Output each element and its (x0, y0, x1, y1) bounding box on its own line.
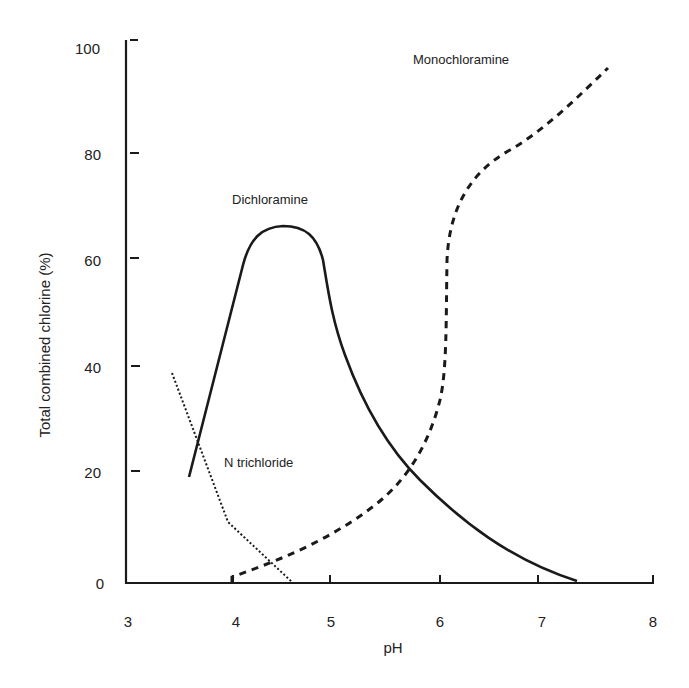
x-tick-label-8: 8 (649, 613, 657, 630)
x-tick-label-6: 6 (436, 613, 444, 630)
x-axis-title: pH (383, 639, 402, 656)
label-monochloramine: Monochloramine (413, 52, 509, 67)
x-axis: 3 4 5 6 7 8 pH (124, 575, 657, 656)
y-axis: 100 80 60 40 20 0 Total combined chlorin… (36, 40, 140, 592)
y-tick-label-100: 100 (75, 40, 100, 57)
y-tick-label-40: 40 (84, 359, 101, 376)
x-tick-label-3: 3 (124, 613, 132, 630)
y-axis-title: Total combined chlorine (%) (36, 252, 53, 437)
chloramine-ph-chart: 100 80 60 40 20 0 Total combined chlorin… (0, 0, 689, 688)
y-tick-label-80: 80 (84, 146, 101, 163)
x-tick-label-4: 4 (232, 613, 240, 630)
label-dichloramine: Dichloramine (232, 192, 308, 207)
y-tick-label-0: 0 (96, 575, 104, 592)
series-dichloramine (189, 226, 577, 581)
x-tick-label-5: 5 (327, 613, 335, 630)
y-tick-label-20: 20 (84, 464, 101, 481)
series-n-trichloride (172, 373, 292, 582)
y-tick-label-60: 60 (84, 252, 101, 269)
label-n-trichloride: N trichloride (224, 455, 293, 470)
series-monochloramine (232, 68, 608, 582)
x-tick-label-7: 7 (538, 613, 546, 630)
